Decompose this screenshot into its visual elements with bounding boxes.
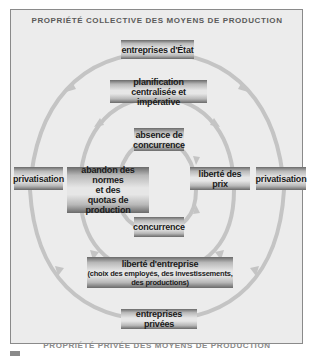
box-privatisation-left: privatisation	[14, 167, 63, 190]
box-no-competition: absence de concurrence	[134, 128, 184, 151]
box-label: entreprises privées	[121, 309, 197, 329]
box-label: privatisation	[13, 174, 64, 184]
box-label-line2: et des	[67, 185, 149, 195]
box-private-enterprises: entreprises privées	[121, 309, 197, 329]
box-state-enterprises: entreprises d'État	[121, 40, 194, 59]
box-label-line2: concurrence	[133, 140, 185, 150]
box-price-freedom: liberté des prix	[190, 167, 250, 190]
box-competition: concurrence	[134, 217, 184, 237]
box-label-line1: abandon des normes	[67, 165, 149, 185]
box-label-line2: centralisée et impérative	[110, 87, 207, 107]
box-label-line3: des productions)	[87, 278, 232, 287]
box-label: liberté des prix	[190, 169, 250, 189]
heading-collective-ownership: PROPRIÉTÉ COLLECTIVE DES MOYENS DE PRODU…	[0, 16, 314, 25]
corner-mark	[10, 351, 20, 356]
heading-private-ownership: PROPRIÉTÉ PRIVÉE DES MOYENS DE PRODUCTIO…	[0, 341, 314, 350]
box-label: entreprises d'État	[121, 45, 193, 55]
arrow-icon	[193, 156, 200, 165]
box-label-line1: planification	[110, 77, 207, 87]
box-label-line3: quotas de production	[67, 195, 149, 215]
box-privatisation-right: privatisation	[256, 167, 306, 190]
box-central-planning: planification centralisée et impérative	[110, 80, 207, 103]
box-label-line2: (choix des employés, des investissements…	[87, 269, 232, 278]
box-label: concurrence	[133, 222, 185, 232]
box-label-line1: liberté d'entreprise	[87, 259, 232, 269]
box-label: privatisation	[256, 174, 307, 184]
box-enterprise-freedom: liberté d'entreprise (choix des employés…	[87, 257, 233, 288]
box-label-line1: absence de	[133, 130, 185, 140]
box-abandon-norms-quotas: abandon des normes et des quotas de prod…	[67, 167, 149, 213]
